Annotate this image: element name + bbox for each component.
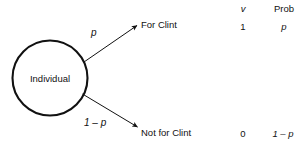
outcome-label-not-for-clint: Not for Clint [141, 128, 191, 138]
value-cell-v-not-for-clint: 0 [240, 129, 245, 139]
value-cell-v-for-clint: 1 [240, 22, 245, 32]
column-header-v: v [241, 4, 246, 14]
value-cell-prob-not-for-clint: 1 – p [272, 129, 293, 139]
value-cell-prob-for-clint: p [281, 22, 286, 32]
branch-probability-label-not-for-clint: 1 – p [84, 118, 106, 128]
branch-probability-label-for-clint: p [91, 28, 97, 38]
outcome-label-for-clint: For Clint [141, 20, 177, 30]
probability-tree-diagram: Individual p 1 – p For Clint Not for Cli… [0, 0, 308, 150]
column-header-prob: Prob [274, 4, 294, 14]
root-node-label: Individual [30, 74, 70, 84]
